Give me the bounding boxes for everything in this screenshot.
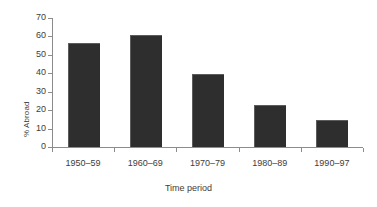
x-axis-category-label: 1970–79 xyxy=(176,158,238,169)
x-axis-category-label: 1950–59 xyxy=(52,158,114,169)
y-axis-tick-mark xyxy=(48,55,52,56)
y-axis-tick-mark xyxy=(48,36,52,37)
y-axis-tick-mark xyxy=(48,73,52,74)
y-axis-tick-mark xyxy=(48,92,52,93)
x-axis-category-label: 1980–89 xyxy=(239,158,301,169)
x-axis-tick-mark xyxy=(114,148,115,152)
x-axis-tick-mark xyxy=(52,148,53,152)
y-axis-title: % Abroad xyxy=(22,17,36,137)
x-axis-tick-mark xyxy=(176,148,177,152)
x-axis-category-label: 1990–97 xyxy=(301,158,363,169)
x-axis-category-label: 1960–69 xyxy=(114,158,176,169)
y-axis-tick: 10 xyxy=(52,129,53,130)
y-axis-tick-label: 40 xyxy=(36,67,46,78)
bar xyxy=(254,105,286,147)
y-axis-tick-label: 70 xyxy=(36,12,46,23)
y-axis-tick-mark xyxy=(48,129,52,130)
bar xyxy=(68,43,100,147)
x-axis-title: Time period xyxy=(0,183,377,193)
y-axis-tick: 60 xyxy=(52,36,53,37)
x-axis-line xyxy=(52,147,363,148)
y-axis-tick-label: 10 xyxy=(36,123,46,134)
y-axis-tick: 50 xyxy=(52,55,53,56)
x-axis-tick-mark xyxy=(239,148,240,152)
y-axis-tick: 20 xyxy=(52,110,53,111)
y-axis-tick-label: 50 xyxy=(36,49,46,60)
x-axis-tick-mark xyxy=(301,148,302,152)
y-axis-tick: 40 xyxy=(52,73,53,74)
bar-chart: % Abroad 010203040506070 1950–591960–691… xyxy=(0,0,377,207)
y-axis-tick: 30 xyxy=(52,92,53,93)
y-axis-tick-label: 0 xyxy=(41,141,46,152)
bar xyxy=(130,35,162,147)
y-axis-tick-mark xyxy=(48,110,52,111)
bar xyxy=(316,120,348,147)
bar xyxy=(192,74,224,147)
x-axis-tick-mark xyxy=(363,148,364,152)
y-axis-tick-label: 60 xyxy=(36,30,46,41)
y-axis-tick-mark xyxy=(48,18,52,19)
y-axis-tick: 70 xyxy=(52,18,53,19)
plot-area: 010203040506070 1950–591960–691970–79198… xyxy=(52,18,363,148)
y-axis-tick-label: 20 xyxy=(36,104,46,115)
y-axis-tick-label: 30 xyxy=(36,86,46,97)
